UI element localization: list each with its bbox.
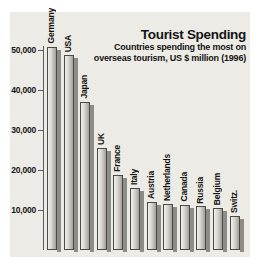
bar-label-france: France <box>112 145 123 172</box>
chart-figure: Tourist Spending Countries spending the … <box>0 0 262 264</box>
bar-label-austria: Austria <box>146 171 157 199</box>
y-axis-line <box>43 46 44 250</box>
bar-label-italy: Italy <box>129 169 140 185</box>
bar-label-netherlands: Netherlands <box>162 154 173 201</box>
bar-japan <box>80 102 90 250</box>
bar-belgium <box>213 208 223 250</box>
bar-label-usa: USA <box>63 35 74 52</box>
bar-france <box>113 175 123 250</box>
bar-usa <box>64 55 74 250</box>
y-tick-30000 <box>38 130 44 131</box>
y-tick-20000 <box>38 170 44 171</box>
y-tick-label-10000: 10,000 <box>10 205 36 215</box>
chart-title: Tourist Spending <box>94 27 246 42</box>
chart-panel: Tourist Spending Countries spending the … <box>10 12 250 257</box>
bar-uk <box>97 148 107 250</box>
bar-russia <box>196 206 206 250</box>
bar-label-germany: Germany <box>46 8 57 43</box>
chart-title-block: Tourist Spending Countries spending the … <box>94 27 246 64</box>
y-tick-10000 <box>38 210 44 211</box>
bar-label-belgium: Belgium <box>212 173 223 205</box>
bar-label-switz: Switz. <box>229 190 240 213</box>
bar-label-japan: Japan <box>79 75 90 99</box>
bar-netherlands <box>163 204 173 250</box>
y-tick-label-30000: 30,000 <box>10 125 36 135</box>
chart-subtitle-line2: overseas tourism, US $ million (1996) <box>94 53 246 64</box>
y-tick-40000 <box>38 90 44 91</box>
bar-label-russia: Russia <box>195 177 206 204</box>
bar-italy <box>130 188 140 250</box>
bar-label-uk: UK <box>96 133 107 145</box>
bar-switz <box>230 216 240 250</box>
chart-subtitle-line1: Countries spending the most on <box>94 42 246 53</box>
bar-label-canada: Canada <box>179 172 190 202</box>
y-tick-50000 <box>38 50 44 51</box>
y-tick-label-40000: 40,000 <box>10 85 36 95</box>
y-tick-label-50000: 50,000 <box>10 45 36 55</box>
bar-austria <box>147 202 157 250</box>
y-tick-label-20000: 20,000 <box>10 165 36 175</box>
bar-canada <box>180 205 190 250</box>
bar-germany <box>47 47 57 250</box>
